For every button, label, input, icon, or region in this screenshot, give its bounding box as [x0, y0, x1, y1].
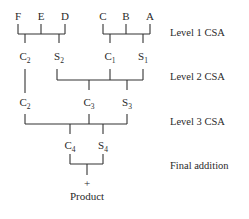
input-f: F	[15, 10, 21, 22]
level2-connectors	[25, 69, 143, 93]
level2-label: Level 2 CSA	[170, 71, 225, 82]
final-connectors	[70, 154, 103, 175]
output-c3: C3	[83, 96, 94, 111]
output-s4: S4	[98, 139, 108, 154]
diagram-canvas: F E D C B A Level 1 CSA C2 S2 C1 S1	[0, 0, 249, 219]
level3-outputs: C4 S4	[64, 139, 108, 154]
input-c: C	[99, 10, 106, 22]
level3-connectors	[25, 114, 127, 134]
input-d: D	[61, 10, 69, 22]
product-label: Product	[70, 190, 104, 202]
final-addition-label: Final addition	[170, 160, 229, 171]
input-b: B	[122, 10, 129, 22]
output-c2: C2	[19, 50, 30, 65]
inputs: F E D C B A	[15, 10, 154, 22]
input-e: E	[38, 10, 45, 22]
level1-outputs: C2 S2 C1 S1	[19, 50, 148, 65]
output-s1: S1	[138, 50, 148, 65]
plus-sign: +	[84, 177, 90, 189]
input-a: A	[146, 10, 154, 22]
output-s3: S3	[122, 96, 132, 111]
csa-tree-diagram: F E D C B A Level 1 CSA C2 S2 C1 S1	[0, 0, 249, 219]
level1-connectors	[18, 24, 150, 43]
level1-label: Level 1 CSA	[170, 27, 225, 38]
output-c2-pass: C2	[19, 96, 30, 111]
level2-outputs: C2 C3 S3	[19, 96, 132, 111]
output-c4: C4	[64, 139, 75, 154]
level3-label: Level 3 CSA	[170, 116, 225, 127]
output-s2: S2	[54, 50, 64, 65]
output-c1: C1	[104, 50, 115, 65]
